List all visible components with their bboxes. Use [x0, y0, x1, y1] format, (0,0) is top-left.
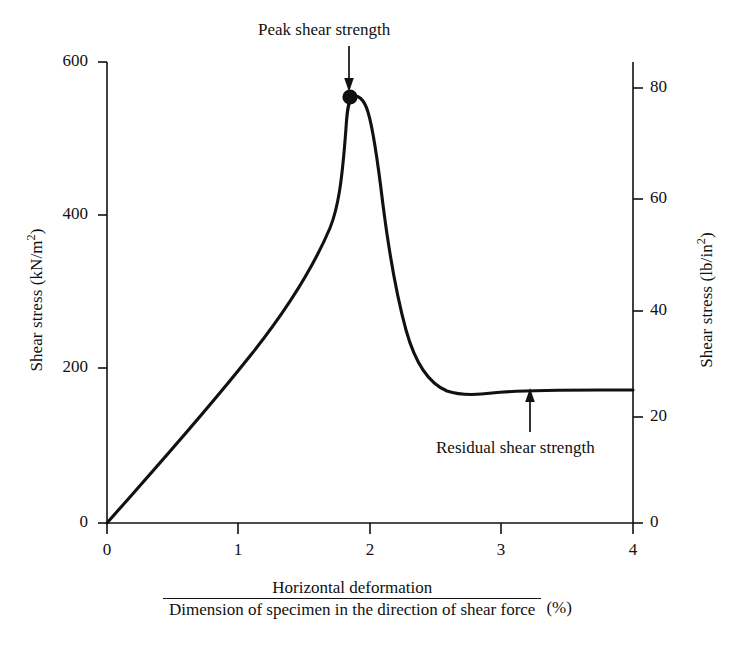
right-tick-label-80: 80 — [650, 77, 710, 97]
peak-annotation-label: Peak shear strength — [258, 20, 390, 40]
right-axis-title-exponent: 2 — [694, 238, 708, 244]
shear-stress-chart-figure: 600 400 200 0 80 60 40 20 0 0 1 2 3 4 Sh… — [0, 0, 735, 653]
bottom-tick-label-4: 4 — [613, 540, 653, 560]
left-axis-ticks — [98, 62, 107, 523]
right-axis-title-close: ) — [697, 232, 716, 238]
bottom-tick-label-2: 2 — [350, 540, 390, 560]
left-tick-label-600: 600 — [28, 51, 88, 71]
left-tick-label-0: 0 — [28, 512, 88, 532]
right-axis-title: Shear stress (lb/in2) — [697, 175, 717, 425]
shear-stress-curve — [107, 96, 633, 523]
residual-annotation-label: Residual shear strength — [436, 438, 595, 458]
x-axis-caption: Horizontal deformation Dimension of spec… — [0, 578, 735, 619]
residual-annotation-arrow — [525, 388, 535, 432]
x-axis-caption-unit: (%) — [546, 598, 571, 619]
bottom-tick-label-1: 1 — [218, 540, 258, 560]
x-axis-caption-numerator: Horizontal deformation — [266, 578, 438, 598]
peak-point-marker — [342, 89, 357, 104]
bottom-tick-label-0: 0 — [87, 540, 127, 560]
peak-annotation-arrow — [344, 46, 354, 92]
left-axis-title: Shear stress (kN/m2) — [27, 175, 47, 425]
left-axis-title-text: Shear stress (kN/m — [27, 240, 46, 371]
right-axis-ticks — [633, 88, 643, 523]
x-axis-caption-denominator: Dimension of specimen in the direction o… — [163, 598, 541, 619]
left-axis-title-exponent: 2 — [24, 234, 38, 240]
bottom-axis-ticks — [107, 523, 633, 534]
x-axis-caption-fraction: Horizontal deformation Dimension of spec… — [163, 578, 541, 619]
right-axis-title-text: Shear stress (lb/in — [697, 244, 716, 368]
bottom-tick-label-3: 3 — [481, 540, 521, 560]
left-axis-title-close: ) — [27, 228, 46, 234]
right-tick-label-0: 0 — [650, 512, 710, 532]
